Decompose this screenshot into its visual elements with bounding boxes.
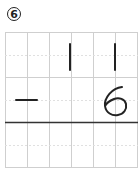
subtraction-grid bbox=[0, 0, 140, 173]
